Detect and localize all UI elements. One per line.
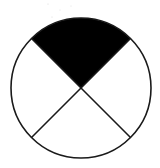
scan-specks: [47, 3, 71, 17]
fraction-circle-diagram: [0, 0, 160, 168]
